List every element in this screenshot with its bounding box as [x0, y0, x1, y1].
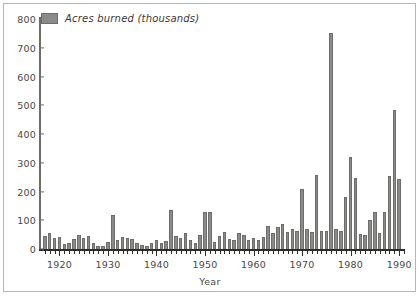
x-tick-mark [331, 250, 332, 254]
x-tick-mark [249, 250, 250, 254]
x-tick-mark [171, 250, 172, 254]
bar [194, 243, 197, 249]
x-tick-mark [50, 250, 51, 254]
bar [67, 243, 70, 249]
bar [397, 179, 400, 249]
bar [58, 237, 61, 249]
x-tick-label: 1940 [144, 259, 169, 270]
legend-label: Acres burned (thousands) [65, 13, 199, 24]
x-tick-mark [229, 250, 230, 254]
bar [320, 231, 323, 249]
x-tick-mark [278, 250, 279, 254]
bar [247, 240, 250, 249]
bar [232, 240, 235, 249]
x-tick-mark [55, 250, 56, 254]
bar [121, 237, 124, 249]
x-tick-mark [389, 250, 390, 254]
bar [77, 235, 80, 249]
x-tick-mark [370, 250, 371, 254]
bar [164, 241, 167, 249]
x-tick-mark [84, 250, 85, 254]
x-tick-mark [326, 250, 327, 254]
x-tick-mark [123, 250, 124, 254]
bar [135, 243, 138, 249]
plot-area [40, 19, 404, 249]
bar [334, 229, 337, 249]
y-tick-label: 700 [17, 42, 36, 53]
x-tick-mark [394, 250, 395, 254]
bar [363, 235, 366, 249]
x-tick-label: 1930 [95, 259, 120, 270]
y-tick-label: 400 [17, 129, 36, 140]
bar [257, 240, 260, 249]
bar [354, 178, 357, 249]
x-tick-mark [244, 250, 245, 254]
bar [145, 246, 148, 249]
x-tick-mark [181, 250, 182, 254]
x-tick-mark [118, 250, 119, 254]
bar [174, 236, 177, 249]
x-tick-mark [254, 250, 255, 256]
bar [378, 233, 381, 249]
x-tick-mark [152, 250, 153, 254]
bar [126, 238, 129, 249]
bar [106, 242, 109, 249]
bar [359, 234, 362, 249]
bar [291, 229, 294, 249]
bar [111, 215, 114, 249]
x-tick-label: 1950 [193, 259, 218, 270]
y-tick-label: 300 [17, 157, 36, 168]
x-tick-mark [365, 250, 366, 254]
y-tick-label: 100 [17, 215, 36, 226]
x-tick-label: 1970 [290, 259, 315, 270]
x-tick-mark [346, 250, 347, 254]
y-tick-label: 0 [30, 244, 36, 255]
x-tick-mark [258, 250, 259, 254]
x-tick-mark [317, 250, 318, 254]
x-tick-label: 1980 [338, 259, 363, 270]
x-tick-mark [108, 250, 109, 256]
bar [130, 239, 133, 249]
x-tick-mark [239, 250, 240, 254]
bar [315, 175, 318, 249]
x-tick-mark [375, 250, 376, 254]
x-tick-mark [142, 250, 143, 254]
bar [373, 212, 376, 249]
bar [48, 233, 51, 249]
bar [43, 236, 46, 249]
bar [53, 238, 56, 249]
bar [63, 244, 66, 249]
bar [140, 245, 143, 249]
x-tick-label: 1990 [387, 259, 412, 270]
bar [184, 233, 187, 249]
x-tick-mark [161, 250, 162, 254]
x-tick-mark [186, 250, 187, 254]
bar [325, 231, 328, 249]
bar [300, 189, 303, 249]
bar [286, 232, 289, 249]
y-tick-label: 600 [17, 71, 36, 82]
x-tick-mark [268, 250, 269, 254]
x-tick-mark [312, 250, 313, 254]
bar [203, 212, 206, 249]
bar [179, 238, 182, 250]
x-tick-mark [137, 250, 138, 254]
x-tick-mark [341, 250, 342, 254]
x-tick-mark [69, 250, 70, 254]
x-tick-mark [176, 250, 177, 254]
bar [310, 232, 313, 249]
bar [237, 233, 240, 249]
bar [169, 210, 172, 249]
x-tick-label: 1960 [241, 259, 266, 270]
bar [349, 157, 352, 249]
x-tick-mark [288, 250, 289, 254]
x-tick-mark [351, 250, 352, 256]
bar [295, 231, 298, 249]
bar [189, 240, 192, 249]
x-tick-mark [59, 250, 60, 256]
bar [198, 235, 201, 249]
bar [266, 226, 269, 249]
bar [150, 243, 153, 249]
bar [388, 176, 391, 249]
x-tick-mark [64, 250, 65, 254]
